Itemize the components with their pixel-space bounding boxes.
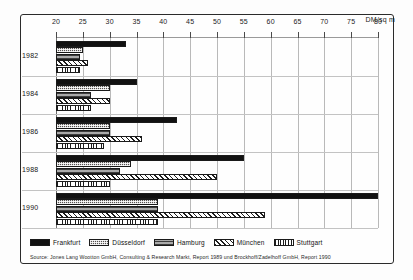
legend-item-stuttgart[interactable]: Stuttgart — [274, 239, 323, 246]
x-tick-label-50: 50 — [213, 18, 221, 25]
bar-munchen-1986 — [56, 136, 142, 142]
bar-group-1988: 1988 — [56, 152, 378, 190]
legend-label-dusseldorf: Düsseldorf — [112, 239, 145, 246]
legend-label-munchen: München — [237, 239, 265, 246]
bar-frankfurt-1986 — [56, 117, 177, 123]
bar-group-1990: 1990 — [56, 190, 378, 228]
plot-bottom-line — [22, 228, 378, 229]
bar-dusseldorf-1986 — [56, 123, 110, 129]
legend-swatch-hamburg — [154, 239, 174, 246]
group-separator — [22, 190, 378, 191]
source-note: Source: Jones Lang Wootton GmbH, Consult… — [30, 254, 331, 260]
bar-dusseldorf-1984 — [56, 85, 110, 91]
x-tick-label-20: 20 — [52, 18, 60, 25]
x-tick-label-60: 60 — [267, 18, 275, 25]
y-axis-label-1986: 1986 — [22, 128, 38, 135]
bar-group-1984: 1984 — [56, 76, 378, 114]
chart-legend: FrankfurtDüsseldorfHamburgMünchenStuttga… — [30, 236, 385, 248]
bar-munchen-1990 — [56, 212, 265, 218]
bar-hamburg-1986 — [56, 130, 110, 136]
bar-frankfurt-1982 — [56, 41, 126, 47]
bar-stuttgart-1986 — [56, 143, 104, 149]
legend-label-frankfurt: Frankfurt — [53, 239, 80, 246]
gridline-80 — [378, 38, 379, 228]
bar-group-1986: 1986 — [56, 114, 378, 152]
bar-group-1982: 1982 — [56, 38, 378, 76]
bar-dusseldorf-1982 — [56, 47, 83, 53]
legend-swatch-munchen — [214, 239, 234, 246]
bar-hamburg-1988 — [56, 168, 120, 174]
legend-swatch-stuttgart — [274, 239, 294, 246]
legend-item-hamburg[interactable]: Hamburg — [154, 239, 205, 246]
legend-item-frankfurt[interactable]: Frankfurt — [30, 239, 80, 246]
bar-stuttgart-1982 — [56, 67, 80, 73]
bar-frankfurt-1990 — [56, 193, 378, 199]
bar-munchen-1988 — [56, 174, 217, 180]
bar-hamburg-1990 — [56, 206, 158, 212]
bar-munchen-1982 — [56, 60, 88, 66]
bar-frankfurt-1988 — [56, 155, 244, 161]
x-tick-label-40: 40 — [159, 18, 167, 25]
group-separator — [22, 114, 378, 115]
bar-dusseldorf-1990 — [56, 199, 158, 205]
plot-area: 2025303540455055606570758019821984198619… — [56, 38, 378, 228]
bar-dusseldorf-1988 — [56, 161, 131, 167]
x-tick-label-30: 30 — [106, 18, 114, 25]
legend-label-hamburg: Hamburg — [177, 239, 205, 246]
legend-item-munchen[interactable]: München — [214, 239, 265, 246]
x-tick-label-75: 75 — [347, 18, 355, 25]
y-axis-label-1988: 1988 — [22, 166, 38, 173]
group-separator — [22, 152, 378, 153]
y-axis-label-1984: 1984 — [22, 90, 38, 97]
x-tick-label-25: 25 — [79, 18, 87, 25]
x-tick-label-55: 55 — [240, 18, 248, 25]
bar-hamburg-1984 — [56, 92, 91, 98]
x-tick-label-65: 65 — [293, 18, 301, 25]
y-axis-label-1982: 1982 — [22, 52, 38, 59]
bar-frankfurt-1984 — [56, 79, 137, 85]
legend-swatch-frankfurt — [30, 239, 50, 246]
x-tick-label-80: 80 — [374, 18, 382, 25]
bar-stuttgart-1988 — [56, 181, 110, 187]
bar-stuttgart-1990 — [56, 219, 158, 225]
bar-stuttgart-1984 — [56, 105, 91, 111]
x-tick-label-35: 35 — [132, 18, 140, 25]
group-separator — [22, 76, 378, 77]
x-tick-80 — [378, 32, 379, 38]
chart-figure: DM/sq m 20253035404550556065707580198219… — [0, 0, 413, 280]
y-axis-label-1990: 1990 — [22, 204, 38, 211]
legend-label-stuttgart: Stuttgart — [297, 239, 323, 246]
legend-item-dusseldorf[interactable]: Düsseldorf — [89, 239, 145, 246]
bar-hamburg-1982 — [56, 54, 80, 60]
legend-swatch-dusseldorf — [89, 239, 109, 246]
bar-munchen-1984 — [56, 98, 110, 104]
x-tick-label-70: 70 — [320, 18, 328, 25]
x-tick-label-45: 45 — [186, 18, 194, 25]
